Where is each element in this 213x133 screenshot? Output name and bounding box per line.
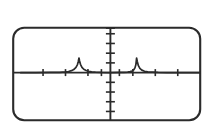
screen-bezel xyxy=(13,28,200,121)
calculator-screenshot xyxy=(0,0,213,133)
graph-plot-surface xyxy=(0,0,213,133)
